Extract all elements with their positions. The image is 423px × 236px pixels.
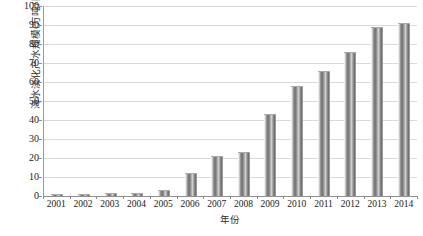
x-tick-mark bbox=[230, 196, 231, 199]
y-tick-mark bbox=[39, 139, 42, 140]
x-tick-label: 2010 bbox=[283, 198, 310, 212]
y-tick-label: 10 bbox=[3, 172, 39, 182]
x-tick-label: 2003 bbox=[96, 198, 123, 212]
bar-slot bbox=[364, 6, 391, 196]
x-tick-mark bbox=[364, 196, 365, 199]
y-tick-mark bbox=[39, 82, 42, 83]
bar-slot bbox=[337, 6, 364, 196]
bar-slot bbox=[177, 6, 204, 196]
x-tick-label: 2001 bbox=[43, 198, 70, 212]
bar bbox=[238, 152, 250, 196]
bar-slot bbox=[124, 6, 151, 196]
x-tick-mark bbox=[177, 196, 178, 199]
bar-slot bbox=[310, 6, 337, 196]
bar bbox=[131, 193, 143, 196]
y-tick-label: 20 bbox=[3, 153, 39, 163]
bar bbox=[398, 23, 410, 196]
y-tick-mark bbox=[39, 158, 42, 159]
bar bbox=[318, 71, 330, 196]
y-tick-label: 0 bbox=[3, 191, 39, 201]
x-tick-mark bbox=[203, 196, 204, 199]
bar-series bbox=[44, 6, 417, 196]
x-tick-label: 2002 bbox=[70, 198, 97, 212]
x-tick-label: 2013 bbox=[364, 198, 391, 212]
x-tick-mark bbox=[310, 196, 311, 199]
y-tick-label: 50 bbox=[3, 96, 39, 106]
y-tick-label: 70 bbox=[3, 58, 39, 68]
y-tick-label: 40 bbox=[3, 115, 39, 125]
bar bbox=[264, 114, 276, 196]
y-axis-tick-labels: 0102030405060708090100 bbox=[0, 6, 39, 196]
bar-slot bbox=[204, 6, 231, 196]
bar bbox=[211, 156, 223, 196]
bar-slot bbox=[44, 6, 71, 196]
bar bbox=[185, 173, 197, 196]
x-axis-title: 年份 bbox=[43, 212, 417, 226]
y-tick-label: 60 bbox=[3, 77, 39, 87]
x-tick-label: 2009 bbox=[257, 198, 284, 212]
x-tick-mark bbox=[283, 196, 284, 199]
bar-slot bbox=[390, 6, 417, 196]
x-tick-label: 2006 bbox=[177, 198, 204, 212]
bar-slot bbox=[230, 6, 257, 196]
x-tick-mark bbox=[123, 196, 124, 199]
x-tick-mark bbox=[150, 196, 151, 199]
bar bbox=[78, 194, 90, 196]
y-tick-mark bbox=[39, 120, 42, 121]
x-tick-mark bbox=[43, 196, 44, 199]
bar bbox=[344, 52, 356, 196]
x-tick-label: 2008 bbox=[230, 198, 257, 212]
x-tick-label: 2007 bbox=[203, 198, 230, 212]
bar-slot bbox=[151, 6, 178, 196]
y-tick-mark bbox=[39, 101, 42, 102]
y-tick-mark bbox=[39, 63, 42, 64]
x-tick-mark bbox=[257, 196, 258, 199]
bar-slot bbox=[284, 6, 311, 196]
y-tick-mark bbox=[39, 6, 42, 7]
bar bbox=[371, 27, 383, 196]
y-tick-mark bbox=[39, 25, 42, 26]
x-tick-mark bbox=[390, 196, 391, 199]
bar bbox=[105, 193, 117, 196]
y-tick-label: 90 bbox=[3, 20, 39, 30]
x-tick-label: 2014 bbox=[390, 198, 417, 212]
bar bbox=[51, 194, 63, 196]
y-tick-mark bbox=[39, 196, 42, 197]
bar-slot bbox=[71, 6, 98, 196]
bar bbox=[291, 86, 303, 196]
y-tick-mark bbox=[39, 177, 42, 178]
bar bbox=[158, 190, 170, 196]
x-tick-mark bbox=[70, 196, 71, 199]
y-tick-label: 80 bbox=[3, 39, 39, 49]
y-tick-label: 100 bbox=[3, 1, 39, 11]
y-tick-label: 30 bbox=[3, 134, 39, 144]
x-tick-label: 2004 bbox=[123, 198, 150, 212]
x-tick-mark bbox=[337, 196, 338, 199]
y-tick-mark bbox=[39, 44, 42, 45]
x-tick-mark bbox=[417, 196, 418, 199]
plot-area bbox=[43, 6, 417, 196]
x-tick-label: 2005 bbox=[150, 198, 177, 212]
bar-chart: 海水淡化产水规模(万吨/日) 0102030405060708090100 20… bbox=[0, 0, 423, 236]
x-tick-label: 2012 bbox=[337, 198, 364, 212]
x-tick-label: 2011 bbox=[310, 198, 337, 212]
x-axis-tick-labels: 2001200220032004200520062007200820092010… bbox=[43, 198, 417, 212]
bar-slot bbox=[257, 6, 284, 196]
x-tick-mark bbox=[96, 196, 97, 199]
bar-slot bbox=[97, 6, 124, 196]
